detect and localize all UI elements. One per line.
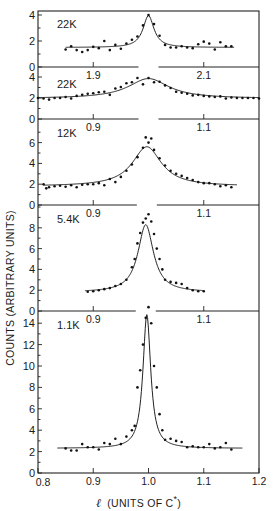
data-point <box>202 95 205 98</box>
data-point <box>153 81 156 84</box>
data-point <box>191 289 194 292</box>
temperature-label: 22K <box>57 18 77 30</box>
y-tick-label: 6 <box>29 243 35 255</box>
data-point <box>180 283 183 286</box>
data-point <box>169 87 172 90</box>
data-point <box>59 184 62 187</box>
data-point <box>230 448 233 451</box>
data-point <box>97 182 100 185</box>
data-point <box>64 447 67 450</box>
data-point <box>125 435 128 438</box>
data-point <box>214 183 217 186</box>
ell-symbol: ℓ <box>96 496 101 510</box>
data-point <box>158 258 161 261</box>
data-point <box>97 91 100 94</box>
y-tick-label: 4 <box>29 263 35 275</box>
data-point <box>225 45 228 48</box>
data-point <box>197 290 200 293</box>
data-point <box>103 184 106 187</box>
panel-22K-0: 0241.92.122K <box>29 9 259 81</box>
data-point <box>136 386 139 389</box>
data-point <box>202 182 205 185</box>
data-point <box>219 95 222 98</box>
data-point <box>120 86 123 89</box>
temperature-label: 12K <box>57 127 77 139</box>
y-tick-label: 4 <box>29 9 35 21</box>
data-point <box>150 322 153 325</box>
data-point <box>197 181 200 184</box>
data-point <box>247 97 250 100</box>
data-point <box>230 186 233 189</box>
x-axis-label-text: (UNITS OF C <box>107 497 173 509</box>
data-point <box>59 97 62 100</box>
data-point <box>120 443 123 446</box>
data-point <box>214 48 217 51</box>
data-point <box>142 83 145 86</box>
data-point <box>136 35 139 38</box>
data-point <box>191 47 194 50</box>
data-point <box>125 82 128 85</box>
data-point <box>48 98 51 101</box>
data-point <box>225 184 228 187</box>
data-point <box>64 48 67 51</box>
data-point <box>109 94 112 97</box>
data-point <box>153 233 156 236</box>
data-point <box>252 97 255 100</box>
y-tick-label: 0 <box>29 113 35 125</box>
data-point <box>153 149 156 152</box>
data-point <box>70 184 73 187</box>
x-tick-label: 0.9 <box>86 121 101 133</box>
data-point <box>186 46 189 49</box>
x-tick-label: 0.9 <box>86 313 101 325</box>
data-point <box>147 306 150 309</box>
data-point <box>169 169 172 172</box>
data-point <box>158 413 161 416</box>
data-point <box>186 93 189 96</box>
data-point <box>161 429 164 432</box>
data-point <box>169 46 172 49</box>
data-point <box>136 77 139 80</box>
data-point <box>131 38 134 41</box>
data-point <box>75 49 78 52</box>
data-point <box>92 92 95 95</box>
x-tick-label: 1.1 <box>196 207 211 219</box>
data-point <box>225 442 228 445</box>
data-point <box>53 185 56 188</box>
data-point <box>169 437 172 440</box>
y-axis-label: COUNTS (ARBITRARY UNITS) <box>3 163 17 413</box>
y-tick-label: 2 <box>29 35 35 47</box>
data-point <box>155 247 158 250</box>
x-tick-label: 1.0 <box>141 475 156 487</box>
data-point <box>169 281 172 284</box>
y-tick-label: 8 <box>29 222 35 234</box>
x-tick-label: 1.1 <box>196 475 211 487</box>
data-point <box>175 90 178 93</box>
data-point <box>225 97 228 100</box>
data-point <box>53 97 56 100</box>
data-point <box>230 45 233 48</box>
x-tick-label: 1.9 <box>86 69 101 81</box>
data-point <box>64 186 67 189</box>
data-point <box>164 279 167 282</box>
data-point <box>120 48 123 51</box>
data-point <box>109 49 112 52</box>
data-point <box>219 185 222 188</box>
y-tick-label: 0 <box>29 199 35 211</box>
fit-curve <box>57 315 242 448</box>
y-axis-label-text: COUNTS (ARBITRARY UNITS) <box>4 210 16 366</box>
data-point <box>86 446 89 449</box>
data-point <box>81 443 84 446</box>
data-point <box>42 97 45 100</box>
x-tick-label: 0.8 <box>36 476 51 488</box>
data-point <box>136 156 139 159</box>
data-point <box>197 43 200 46</box>
data-point <box>86 93 89 96</box>
data-point <box>81 94 84 97</box>
data-point <box>147 14 150 17</box>
data-point <box>164 439 167 442</box>
data-point <box>142 147 145 150</box>
y-tick-label: 12 <box>23 339 35 351</box>
data-point <box>186 287 189 290</box>
panel-12K-2: 02460.91.112K <box>29 127 259 219</box>
fit-curve <box>44 147 237 185</box>
